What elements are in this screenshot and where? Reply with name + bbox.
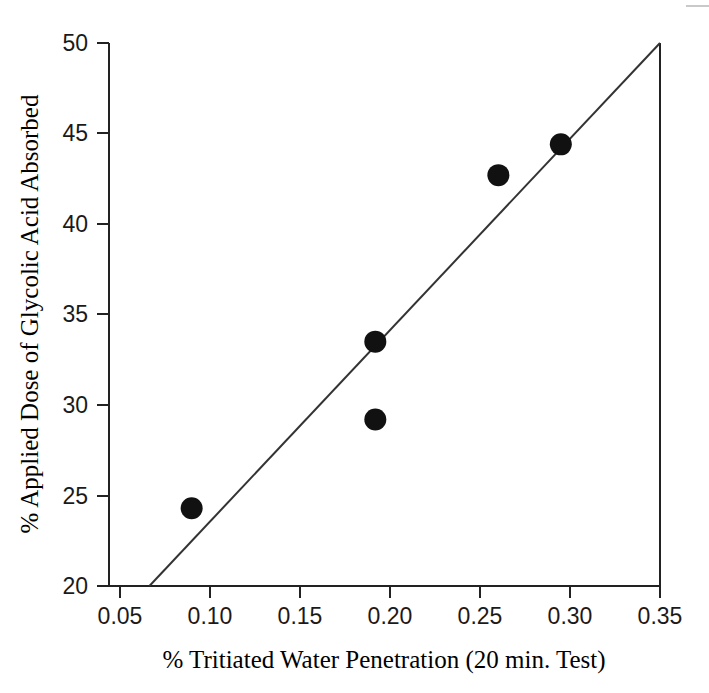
data-point (487, 164, 509, 186)
y-tick-label: 40 (62, 211, 88, 237)
x-tick-label: 0.25 (458, 603, 503, 629)
data-point (550, 133, 572, 155)
y-tick-label: 50 (62, 30, 88, 56)
data-point-group (181, 133, 572, 519)
data-point (364, 408, 386, 430)
y-tick-label: 30 (62, 392, 88, 418)
x-tick-label: 0.20 (368, 603, 413, 629)
y-axis-ticks (97, 43, 109, 586)
chart-figure: 50 45 40 35 30 25 20 0.05 0.10 0.15 0.20… (0, 0, 709, 693)
y-axis-title: % Applied Dose of Glycolic Acid Absorbed (16, 94, 43, 533)
y-tick-label: 25 (62, 483, 88, 509)
x-axis-title: % Tritiated Water Penetration (20 min. T… (162, 646, 605, 674)
data-point (181, 497, 203, 519)
x-tick-label: 0.30 (548, 603, 593, 629)
y-tick-label: 35 (62, 301, 88, 327)
x-axis-tick-labels: 0.05 0.10 0.15 0.20 0.25 0.30 0.35 (98, 603, 683, 629)
x-tick-label: 0.35 (638, 603, 683, 629)
y-tick-label: 45 (62, 120, 88, 146)
x-tick-label: 0.05 (98, 603, 143, 629)
x-tick-label: 0.15 (278, 603, 323, 629)
x-tick-label: 0.10 (188, 603, 233, 629)
x-axis-ticks (120, 586, 660, 598)
trend-line (149, 43, 660, 586)
scatter-plot-canvas: 50 45 40 35 30 25 20 0.05 0.10 0.15 0.20… (0, 0, 709, 693)
y-axis-tick-labels: 50 45 40 35 30 25 20 (62, 30, 88, 599)
y-tick-label: 20 (62, 573, 88, 599)
data-point (364, 331, 386, 353)
